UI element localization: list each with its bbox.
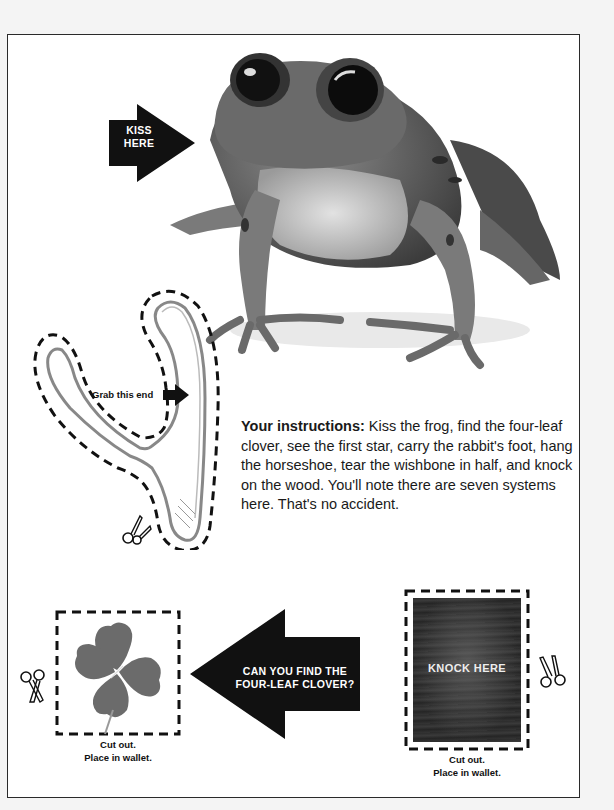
scissors-icon: [536, 654, 568, 690]
grab-this-end-label: Grab this end: [92, 389, 153, 400]
instructions-paragraph: Your instructions: Kiss the frog, find t…: [241, 417, 581, 515]
clover-cutout[interactable]: [55, 610, 181, 736]
wishbone-cutout[interactable]: [30, 288, 230, 550]
knock-wood-cutout[interactable]: KNOCK HERE: [404, 589, 530, 751]
clover-caption: Cut out. Place in wallet.: [55, 738, 181, 764]
instructions-lead: Your instructions:: [241, 418, 365, 434]
find-clover-label: CAN YOU FIND THE FOUR-LEAF CLOVER?: [230, 665, 360, 691]
knock-here-label: KNOCK HERE: [413, 662, 521, 674]
arrow-right-icon: [163, 384, 189, 406]
scissors-icon: [120, 512, 152, 546]
wood-caption: Cut out. Place in wallet.: [404, 753, 530, 779]
scissors-icon: [18, 668, 52, 704]
find-clover-arrow: CAN YOU FIND THE FOUR-LEAF CLOVER?: [190, 609, 360, 739]
wood-texture: KNOCK HERE: [413, 598, 521, 742]
